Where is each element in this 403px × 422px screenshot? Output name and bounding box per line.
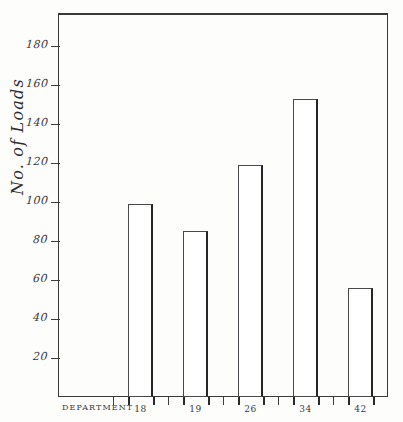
bar	[348, 288, 373, 397]
x-axis-tick-label: 34	[286, 404, 326, 414]
x-axis-tick-label: 42	[341, 404, 381, 414]
y-axis-tick-label: 100	[25, 194, 48, 207]
y-axis-tick: 140	[51, 124, 60, 125]
bar	[238, 165, 263, 397]
chart-page: No. of Loads 20406080100120140160180 181…	[0, 0, 403, 422]
y-axis-tick: 60	[51, 280, 60, 281]
bar	[293, 99, 318, 397]
x-axis-tick-label: 26	[231, 404, 271, 414]
y-axis-tick-label: 120	[25, 155, 48, 168]
y-axis-title: No. of Loads	[8, 45, 27, 195]
y-axis-tick: 20	[51, 358, 60, 359]
y-axis-tick-label: 180	[25, 38, 48, 51]
bar	[183, 231, 208, 397]
x-axis-tick-label: 19	[176, 404, 216, 414]
x-axis-separator-tick	[278, 397, 279, 405]
y-axis-tick-label: 40	[33, 311, 49, 324]
y-axis-tick-label: 20	[33, 350, 49, 363]
y-axis-tick: 120	[51, 163, 60, 164]
y-axis-tick: 180	[51, 46, 60, 47]
y-axis-tick: 80	[51, 241, 60, 242]
y-axis-tick-label: 140	[25, 116, 48, 129]
y-axis-tick: 160	[51, 85, 60, 86]
bar	[128, 204, 153, 397]
x-axis-title: DEPARTMENT	[62, 403, 133, 412]
x-axis-separator-tick	[333, 397, 334, 405]
y-axis-tick-label: 80	[33, 233, 49, 246]
y-axis-tick: 40	[51, 319, 60, 320]
y-axis-tick-label: 60	[33, 272, 49, 285]
x-axis-separator-tick	[223, 397, 224, 405]
y-axis-tick-label: 160	[25, 77, 48, 90]
x-axis-separator-tick	[168, 397, 169, 405]
plot-area: 20406080100120140160180	[58, 13, 388, 397]
y-axis-tick: 100	[51, 202, 60, 203]
